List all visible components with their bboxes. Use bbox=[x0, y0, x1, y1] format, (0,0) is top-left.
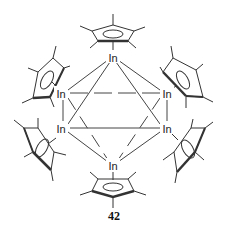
cluster-structure: In In In In In In 42 bbox=[0, 0, 228, 240]
cp-star-ligand-top bbox=[80, 14, 145, 50]
atom-in-lower-right: In bbox=[162, 123, 171, 135]
atom-in-upper-left: In bbox=[56, 88, 65, 100]
octahedron-bonds bbox=[63, 60, 167, 162]
atom-in-bottom: In bbox=[108, 160, 117, 172]
compound-number: 42 bbox=[108, 209, 120, 223]
atom-label-masks bbox=[54, 50, 174, 171]
cp-star-ligand-bottom bbox=[80, 172, 146, 208]
atom-in-top: In bbox=[108, 52, 117, 64]
atom-in-lower-left: In bbox=[56, 123, 65, 135]
atom-in-upper-right: In bbox=[162, 88, 171, 100]
